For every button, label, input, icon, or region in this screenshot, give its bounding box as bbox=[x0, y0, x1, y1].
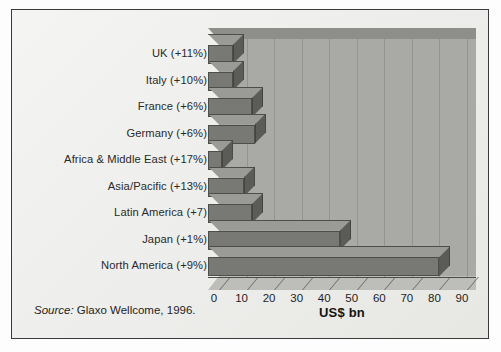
category-label: Africa & Middle East (+17%) bbox=[64, 153, 207, 165]
category-axis-labels: UK (+11%)Italy (+10%)France (+6%)Germany… bbox=[22, 28, 207, 290]
category-label: France (+6%) bbox=[138, 100, 207, 112]
bar bbox=[208, 61, 244, 80]
bar bbox=[208, 220, 351, 239]
bar bbox=[208, 167, 255, 186]
value-axis-title-wrap: US$ bn bbox=[208, 305, 476, 320]
bar bbox=[208, 193, 263, 212]
bar-front-face bbox=[208, 257, 439, 276]
chart-frame: UK (+11%)Italy (+10%)France (+6%)Germany… bbox=[11, 9, 489, 339]
tick-label-80: 80 bbox=[422, 292, 446, 304]
bar bbox=[208, 140, 233, 159]
gridline-50 bbox=[357, 39, 358, 277]
category-label: UK (+11%) bbox=[152, 47, 207, 59]
bar bbox=[208, 34, 244, 53]
value-axis-line bbox=[208, 277, 476, 278]
category-label: Latin America (+7) bbox=[114, 206, 207, 218]
bar bbox=[208, 246, 450, 265]
tick-label-10: 10 bbox=[230, 292, 254, 304]
category-label: Germany (+6%) bbox=[126, 127, 207, 139]
bar bbox=[208, 87, 263, 106]
tick-label-40: 40 bbox=[312, 292, 336, 304]
source-note: Source: Glaxo Wellcome, 1996. bbox=[34, 304, 196, 316]
plot-area bbox=[208, 28, 476, 290]
tick-label-90: 90 bbox=[450, 292, 474, 304]
gridline-90 bbox=[467, 39, 468, 277]
tick-label-60: 60 bbox=[367, 292, 391, 304]
chart-page: UK (+11%)Italy (+10%)France (+6%)Germany… bbox=[0, 0, 501, 352]
bar bbox=[208, 114, 266, 133]
category-label: Asia/Pacific (+13%) bbox=[108, 180, 207, 192]
tick-label-70: 70 bbox=[395, 292, 419, 304]
bar-top-face bbox=[208, 246, 450, 257]
gridline-60 bbox=[384, 39, 385, 277]
source-body: Glaxo Wellcome, 1996. bbox=[74, 304, 196, 316]
category-label: Italy (+10%) bbox=[146, 74, 207, 86]
tick-label-30: 30 bbox=[285, 292, 309, 304]
value-axis-title: US$ bn bbox=[208, 305, 476, 320]
category-label: Japan (+1%) bbox=[142, 233, 207, 245]
chart-inner: UK (+11%)Italy (+10%)France (+6%)Germany… bbox=[12, 10, 488, 338]
tick-label-0: 0 bbox=[202, 292, 226, 304]
tick-label-50: 50 bbox=[340, 292, 364, 304]
gridline-70 bbox=[412, 39, 413, 277]
tick-label-20: 20 bbox=[257, 292, 281, 304]
source-prefix: Source: bbox=[34, 304, 74, 316]
bar-top-face bbox=[208, 220, 351, 231]
gridline-80 bbox=[439, 39, 440, 277]
category-label: North America (+9%) bbox=[101, 259, 207, 271]
